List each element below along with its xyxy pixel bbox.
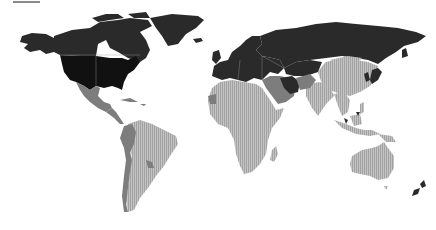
- region-iceland[interactable]: [193, 38, 203, 43]
- world-map: [0, 0, 436, 230]
- region-new-guinea[interactable]: [378, 134, 396, 142]
- region-usa[interactable]: [60, 55, 140, 90]
- region-alaska[interactable]: [20, 33, 54, 54]
- region-new-zealand[interactable]: [412, 180, 426, 196]
- region-sakhalin[interactable]: [402, 48, 408, 58]
- region-philippines[interactable]: [360, 102, 364, 114]
- region-central-america[interactable]: [106, 108, 124, 124]
- region-australia[interactable]: [350, 142, 394, 180]
- region-tasmania[interactable]: [384, 186, 388, 190]
- region-canada[interactable]: [54, 18, 152, 62]
- region-uk[interactable]: [212, 50, 221, 64]
- region-southeast-asia[interactable]: [334, 92, 350, 116]
- region-caribbean[interactable]: [120, 98, 146, 106]
- region-madagascar[interactable]: [270, 146, 278, 162]
- region-borneo[interactable]: [350, 114, 362, 126]
